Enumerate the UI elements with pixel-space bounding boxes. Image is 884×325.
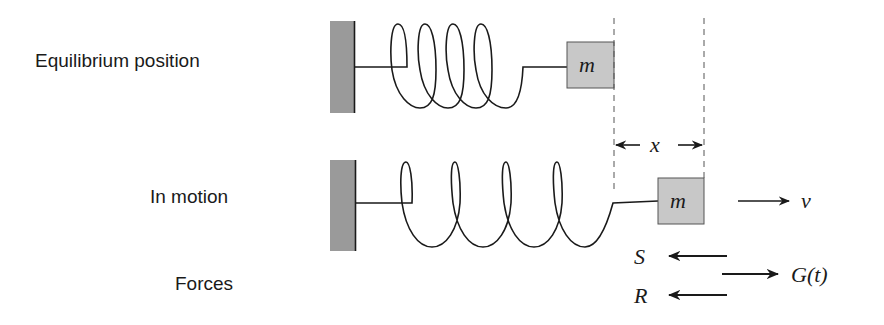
spring-bottom <box>356 162 658 247</box>
mass-top-symbol: m <box>579 52 595 77</box>
spring-force-symbol: S <box>634 244 645 269</box>
velocity-arrow: v <box>738 188 811 213</box>
resistance-force-symbol: R <box>633 283 648 308</box>
displacement-indicator: x <box>616 132 702 157</box>
equilibrium-system: m <box>330 21 614 113</box>
external-force-symbol: G(t) <box>791 262 828 287</box>
velocity-symbol: v <box>801 188 811 213</box>
spring-top <box>355 24 567 108</box>
displacement-symbol: x <box>649 132 660 157</box>
wall-bottom <box>330 160 355 251</box>
resistance-force-arrow: R <box>633 283 727 308</box>
external-force-arrow: G(t) <box>722 262 828 287</box>
wall-top <box>330 21 354 113</box>
motion-system: m <box>330 160 704 251</box>
mass-bottom-symbol: m <box>670 188 686 213</box>
spring-mass-diagram: m x m v S G(t) R <box>0 0 884 325</box>
spring-force-arrow: S <box>634 244 727 269</box>
